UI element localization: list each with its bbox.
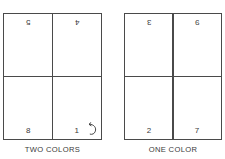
- quadrant-bottom-right: 7: [173, 77, 221, 140]
- quadrant-value: 7: [195, 126, 199, 135]
- quadrant-top-right: 4: [53, 14, 102, 77]
- quadrant-value: 4: [75, 18, 79, 27]
- quadrant-top-right: 9: [173, 14, 221, 77]
- rotate-arrow-icon: [85, 122, 99, 137]
- quadrant-value: 8: [26, 126, 30, 135]
- caption-one-color: ONE COLOR: [124, 145, 222, 154]
- quadrant-value: 3: [147, 18, 151, 27]
- figure-container: 5 4 8 1 TWO COLORS 3 9 2: [0, 0, 225, 159]
- quadrant-value: 9: [195, 18, 199, 27]
- quadrant-bottom-left: 8: [4, 77, 53, 140]
- panel-one-color: 3 9 2 7: [124, 13, 222, 140]
- caption-two-colors: TWO COLORS: [3, 145, 102, 154]
- quadrant-value: 1: [75, 126, 79, 135]
- quadrant-top-left: 5: [4, 14, 53, 77]
- quadrant-top-left: 3: [125, 14, 173, 77]
- quadrant-value: 5: [26, 18, 30, 27]
- quadrant-bottom-right: 1: [53, 77, 102, 140]
- quadrant-value: 2: [147, 126, 151, 135]
- quadrant-bottom-left: 2: [125, 77, 173, 140]
- panel-two-colors: 5 4 8 1: [3, 13, 102, 140]
